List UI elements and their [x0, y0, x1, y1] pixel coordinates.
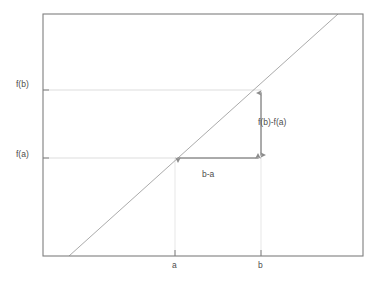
xtick-label-a: a: [172, 261, 177, 270]
rise-annotation-label: f(b)-f(a): [258, 118, 286, 127]
slope-diagram-figure: f(b) f(a) a b f(b)-f(a) b-a: [0, 0, 381, 284]
ytick-label-fa: f(a): [16, 150, 29, 159]
run-annotation-label: b-a: [202, 170, 214, 179]
xtick-label-b: b: [258, 261, 263, 270]
ytick-label-fb: f(b): [16, 80, 29, 89]
plot-canvas: [0, 0, 381, 284]
